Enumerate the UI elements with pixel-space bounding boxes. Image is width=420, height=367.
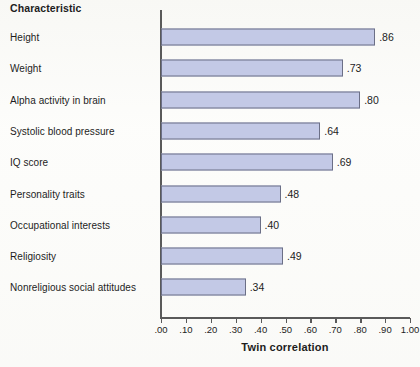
bar-category-label: Nonreligious social attitudes [10, 282, 136, 293]
x-axis-tick-label: .70 [329, 324, 342, 335]
bar [161, 29, 375, 46]
bar-category-label: Occupational interests [10, 219, 110, 230]
bar-category-label: Systolic blood pressure [10, 125, 115, 136]
x-axis-tick-label: .90 [378, 324, 391, 335]
x-axis-tick-label: .10 [179, 324, 192, 335]
bar-value-label: .73 [347, 62, 362, 74]
x-axis-tick [310, 318, 311, 323]
bar-value-label: .40 [265, 219, 280, 231]
bar-value-label: .69 [337, 156, 352, 168]
chart-page: Characteristic Height.86Weight.73Alpha a… [0, 0, 420, 367]
bar-category-label: Personality traits [10, 188, 85, 199]
x-axis-tick-label: .30 [229, 324, 242, 335]
bar-category-label: Religiosity [10, 251, 56, 262]
bar [161, 122, 320, 139]
x-axis-tick-label: .20 [204, 324, 217, 335]
bar-value-label: .48 [285, 188, 300, 200]
bar-value-label: .80 [364, 94, 379, 106]
bar [161, 154, 333, 171]
x-axis-tick-label: .80 [354, 324, 367, 335]
x-axis-tick [286, 318, 287, 323]
x-axis-tick-label: 1.00 [401, 324, 420, 335]
x-axis-tick [161, 318, 162, 323]
x-axis-tick [410, 318, 411, 323]
bar-value-label: .64 [324, 125, 339, 137]
x-axis-tick-label: .40 [254, 324, 267, 335]
x-axis-tick [236, 318, 237, 323]
x-axis-tick [261, 318, 262, 323]
x-axis-tick-label: .50 [279, 324, 292, 335]
x-axis-tick-label: .00 [154, 324, 167, 335]
bar-category-label: Weight [10, 63, 41, 74]
x-axis-title: Twin correlation [160, 341, 410, 353]
bar-value-label: .34 [250, 281, 265, 293]
bar-category-label: Alpha activity in brain [10, 94, 106, 105]
bar-category-label: IQ score [10, 157, 48, 168]
x-axis-tick [211, 318, 212, 323]
x-axis-tick [385, 318, 386, 323]
bar-category-label: Height [10, 32, 39, 43]
bar-value-label: .49 [287, 250, 302, 262]
bar [161, 216, 261, 233]
bar-chart-plot: Height.86Weight.73Alpha activity in brai… [0, 0, 420, 367]
bar-value-label: .86 [379, 31, 394, 43]
x-axis-tick-label: .60 [304, 324, 317, 335]
x-axis-tick [335, 318, 336, 323]
bar [161, 279, 246, 296]
bar [161, 185, 281, 202]
x-axis-tick [186, 318, 187, 323]
bar [161, 248, 283, 265]
x-axis-tick [360, 318, 361, 323]
bar [161, 91, 360, 108]
bar [161, 60, 343, 77]
